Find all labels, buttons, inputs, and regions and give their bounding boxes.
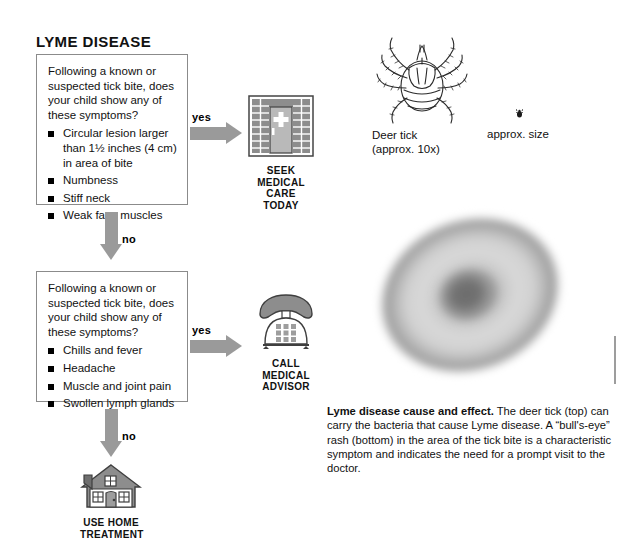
page-edge-rule [614, 336, 616, 384]
deer-tick-icon [373, 28, 471, 124]
bullet-square-icon [48, 384, 54, 390]
list-item: Stiff neck [48, 191, 177, 206]
list-item: Numbness [48, 173, 177, 188]
approx-size-label: approx. size [487, 128, 549, 140]
symptom-list: Circular lesion larger than 1½ inches (4… [48, 126, 177, 223]
outcome-caption-3: USE HOME TREATMENT [80, 517, 142, 540]
bullet-square-icon [48, 213, 54, 219]
yes-arrow-2 [190, 340, 242, 353]
yes-label-2: yes [192, 324, 211, 336]
bullet-square-icon [48, 196, 54, 202]
symptom-text: Swollen lymph glands [63, 397, 174, 409]
yes-label-1: yes [192, 111, 211, 123]
symptom-text: Stiff neck [63, 192, 110, 204]
list-item: Headache [48, 361, 177, 376]
list-item: Chills and fever [48, 343, 177, 358]
bullet-square-icon [48, 348, 54, 354]
symptom-text: Numbness [63, 174, 118, 186]
outcome-home-treatment: USE HOME TREATMENT [80, 463, 142, 540]
bullet-square-icon [48, 401, 54, 407]
no-arrow-2 [105, 409, 118, 457]
actual-size-tick-icon [516, 104, 523, 113]
outcome-caption-1: SEEK MEDICAL CARE TODAY [248, 165, 314, 211]
outcome-telephone: CALL MEDICAL ADVISOR [254, 292, 318, 393]
list-item: Circular lesion larger than 1½ inches (4… [48, 126, 177, 170]
no-arrow-1 [105, 212, 118, 260]
yes-arrow-1 [190, 127, 242, 140]
house-icon [80, 463, 142, 509]
bullet-square-icon [48, 178, 54, 184]
list-item: Muscle and joint pain [48, 379, 177, 394]
telephone-icon [254, 292, 318, 350]
symptom-text: Circular lesion larger than 1½ inches (4… [63, 127, 177, 168]
bulls-eye-rash-photo [370, 196, 570, 398]
symptom-text: Chills and fever [63, 344, 142, 356]
caption-lead: Lyme disease cause and effect. [327, 405, 494, 417]
symptom-list: Chills and fever Headache Muscle and joi… [48, 343, 177, 410]
decision-box-2: Following a known or suspected tick bite… [36, 271, 188, 402]
decision-question: Following a known or suspected tick bite… [48, 281, 177, 339]
no-label-1: no [122, 233, 136, 245]
figure-caption: Lyme disease cause and effect. The deer … [327, 404, 617, 475]
outcome-caption-2: CALL MEDICAL ADVISOR [254, 358, 318, 393]
page-title: LYME DISEASE [36, 33, 151, 50]
decision-box-1: Following a known or suspected tick bite… [36, 54, 188, 205]
outcome-hospital: SEEK MEDICAL CARE TODAY [248, 95, 314, 211]
symptom-text: Muscle and joint pain [63, 380, 171, 392]
no-label-2: no [122, 430, 136, 442]
hospital-building-icon [248, 95, 314, 157]
decision-question: Following a known or suspected tick bite… [48, 64, 177, 122]
bullet-square-icon [48, 366, 54, 372]
bullet-square-icon [48, 131, 54, 137]
symptom-text: Headache [63, 362, 115, 374]
deer-tick-illustration [373, 28, 471, 128]
deer-tick-label: Deer tick (approx. 10x) [372, 128, 440, 156]
rash-image [370, 196, 570, 394]
